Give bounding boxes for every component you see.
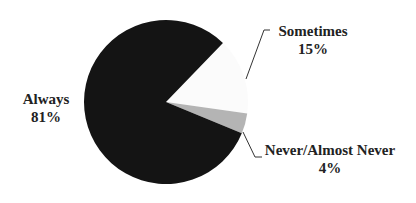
label-never: Never/Almost Never 4% (262, 141, 398, 177)
label-always: Always 81% (18, 90, 74, 126)
label-never-pct: 4% (262, 159, 398, 177)
leader-line-sometimes (246, 30, 270, 79)
label-never-name: Never/Almost Never (262, 141, 398, 159)
label-always-name: Always (18, 90, 74, 108)
leader-line-never (243, 132, 262, 157)
label-sometimes-name: Sometimes (270, 22, 356, 40)
label-always-pct: 81% (18, 108, 74, 126)
label-sometimes: Sometimes 15% (270, 22, 356, 58)
pie-slices (84, 20, 248, 184)
label-sometimes-pct: 15% (270, 40, 356, 58)
